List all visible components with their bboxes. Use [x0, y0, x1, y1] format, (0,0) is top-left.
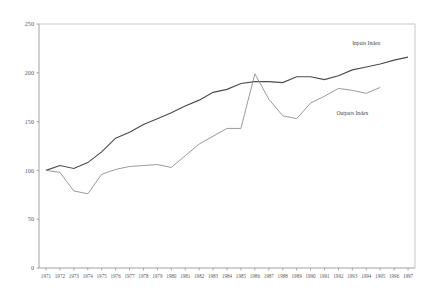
x-tick-label: 1984 [222, 273, 233, 279]
y-axis-ticks: 050100150200250 [25, 20, 39, 271]
x-tick-label: 1993 [347, 273, 358, 279]
x-tick-label: 1973 [69, 273, 80, 279]
y-tick-label: 150 [25, 118, 34, 125]
series-label-inputs: Inputs Index [352, 40, 380, 46]
x-tick-label: 1976 [110, 273, 121, 279]
chart-container: 050100150200250 197119721973197419751976… [0, 0, 434, 292]
x-tick-label: 1995 [375, 273, 386, 279]
x-tick-label: 1982 [194, 273, 205, 279]
x-tick-label: 1975 [97, 273, 108, 279]
y-tick-label: 100 [25, 167, 34, 174]
y-tick-label: 250 [25, 20, 34, 27]
x-tick-label: 1980 [166, 273, 177, 279]
x-tick-label: 1985 [236, 273, 247, 279]
x-tick-label: 1977 [124, 273, 135, 279]
x-tick-label: 1978 [138, 273, 149, 279]
series-label-outputs: Outputs Index [336, 110, 368, 116]
x-tick-label: 1988 [278, 273, 289, 279]
x-tick-label: 1983 [208, 273, 219, 279]
x-tick-label: 1987 [264, 273, 275, 279]
x-tick-label: 1986 [250, 273, 261, 279]
x-tick-label: 1974 [83, 273, 94, 279]
x-tick-label: 1991 [319, 273, 330, 279]
x-tick-label: 1989 [292, 273, 303, 279]
x-tick-label: 1994 [361, 273, 372, 279]
x-tick-label: 1979 [152, 273, 163, 279]
x-tick-label: 1972 [55, 273, 66, 279]
y-tick-label: 50 [28, 215, 34, 222]
y-tick-label: 200 [25, 69, 34, 76]
line-chart: 050100150200250 197119721973197419751976… [0, 0, 434, 292]
series-lines [46, 57, 408, 194]
x-tick-label: 1981 [180, 273, 191, 279]
chart-frame [39, 24, 415, 268]
x-tick-label: 1971 [41, 273, 52, 279]
x-tick-label: 1992 [333, 273, 344, 279]
x-tick-label: 1990 [305, 273, 316, 279]
x-axis-ticks: 1971197219731974197519761977197819791980… [41, 268, 414, 279]
y-tick-label: 0 [31, 264, 34, 271]
x-tick-label: 1997 [403, 273, 414, 279]
x-tick-label: 1996 [389, 273, 400, 279]
